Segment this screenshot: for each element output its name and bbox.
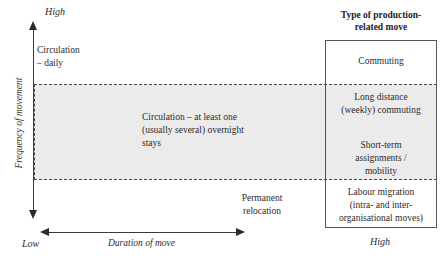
category-box-title-line1: Type of production- [341, 10, 421, 20]
y-axis-low-label: Low [22, 238, 39, 249]
category-item-labour-migration: Labour migration (intra- and inter- orga… [325, 186, 437, 224]
y-axis-high-label: High [45, 6, 65, 17]
x-axis-left-arrow-icon [40, 228, 49, 236]
y-axis-up-arrow-icon [29, 21, 37, 30]
zone-label-circulation-daily-line1: Circulation [37, 45, 80, 55]
y-axis-down-arrow-icon [29, 210, 37, 219]
zone-label-circulation-daily-line2: – daily [37, 58, 63, 68]
category-item-long-distance-line1: Long distance [354, 92, 408, 102]
category-item-long-distance-line2: (weekly) commuting [341, 105, 420, 115]
category-item-labour-line1: Labour migration [348, 187, 415, 197]
y-axis-line [33, 28, 34, 213]
x-axis-high-label: High [370, 236, 390, 247]
zone-label-permanent-relocation-line2: relocation [243, 206, 281, 216]
category-item-short-term-line3: mobility [365, 166, 397, 176]
x-axis-title: Duration of move [108, 238, 175, 248]
category-item-commuting: Commuting [325, 55, 437, 68]
category-item-long-distance-commuting: Long distance (weekly) commuting [325, 91, 437, 117]
category-box-title-line2: related move [355, 22, 407, 32]
category-item-labour-line3: organisational moves) [339, 213, 423, 223]
category-item-commuting-label: Commuting [358, 56, 403, 66]
mobility-typology-diagram: Type of production- related move Commuti… [0, 0, 448, 261]
zone-label-circulation-overnight: Circulation – at least one (usually seve… [142, 111, 250, 150]
x-axis-line [46, 232, 238, 233]
category-item-short-term-line1: Short-term [360, 140, 401, 150]
category-item-short-term-assignments: Short-term assignments / mobility [325, 139, 437, 177]
category-item-short-term-line2: assignments / [355, 153, 406, 163]
category-box-title: Type of production- related move [320, 10, 442, 34]
category-item-labour-line2: (intra- and inter- [350, 200, 413, 210]
x-axis-right-arrow-icon [236, 228, 245, 236]
zone-label-permanent-relocation-line1: Permanent [242, 193, 283, 203]
y-axis-title: Frequency of movement [14, 68, 24, 178]
zone-label-circulation-daily: Circulation – daily [37, 44, 132, 70]
zone-label-permanent-relocation: Permanent relocation [222, 192, 302, 218]
